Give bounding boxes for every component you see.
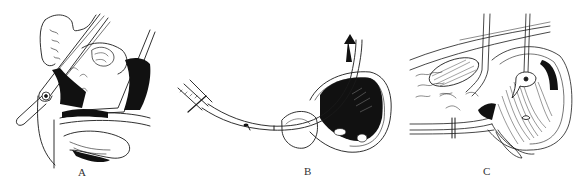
panel-b-drawing: [170, 0, 400, 190]
panel-c-label: C: [483, 165, 490, 177]
panel-b: B: [170, 0, 400, 190]
panel-c-drawing: [400, 0, 576, 190]
panel-a: A: [0, 0, 175, 190]
panel-a-drawing: [0, 0, 175, 190]
panel-c: C: [400, 0, 576, 190]
panel-b-label: B: [304, 165, 311, 177]
surgical-illustration-figure: A: [0, 0, 576, 190]
panel-a-label: A: [78, 166, 86, 178]
